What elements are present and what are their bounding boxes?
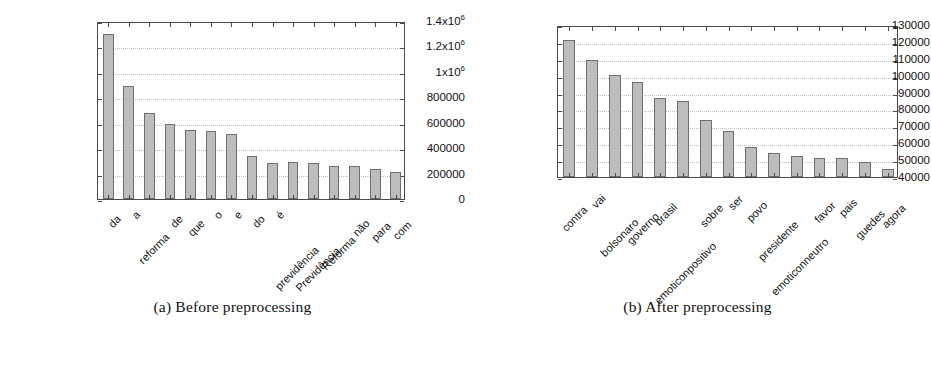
gridline bbox=[98, 48, 404, 49]
y-axis-tick-label: 130000 bbox=[854, 20, 930, 32]
x-tick-mark bbox=[231, 23, 232, 27]
y-axis-tick-label: 100000 bbox=[854, 71, 930, 83]
x-tick-mark bbox=[149, 195, 150, 199]
x-tick-mark bbox=[842, 27, 843, 31]
x-axis-tick-label-text: é bbox=[273, 208, 286, 221]
bar bbox=[632, 82, 644, 177]
y-axis-tick-label: 1.2x106 bbox=[374, 42, 465, 54]
bar bbox=[185, 130, 196, 199]
x-axis-tick-label: é bbox=[277, 204, 290, 217]
x-axis-tick-label: e bbox=[236, 204, 249, 217]
x-axis-tick-label-text: o bbox=[211, 208, 224, 221]
y-tick-mark bbox=[558, 27, 562, 28]
x-axis-tick-label: com bbox=[405, 204, 428, 227]
chart-before-preprocessing: 02000004000006000008000001x1061.2x1061.4… bbox=[0, 0, 465, 290]
bar bbox=[700, 120, 712, 177]
y-tick-mark bbox=[558, 95, 562, 96]
y-axis-tick-label: 80000 bbox=[854, 105, 930, 117]
bar bbox=[723, 131, 735, 177]
x-tick-mark bbox=[211, 195, 212, 199]
y-axis-tick-label: 110000 bbox=[854, 54, 930, 66]
y-tick-mark bbox=[558, 111, 562, 112]
x-tick-mark bbox=[129, 195, 130, 199]
x-axis-tick-label-text: contra bbox=[560, 204, 590, 234]
y-tick-mark bbox=[98, 99, 102, 100]
x-tick-mark bbox=[638, 173, 639, 177]
x-tick-mark bbox=[797, 27, 798, 31]
x-tick-mark bbox=[569, 173, 570, 177]
x-axis-tick-label-text: reforma bbox=[137, 231, 172, 266]
x-tick-mark bbox=[706, 27, 707, 31]
x-axis-tick-label-text: a bbox=[129, 208, 142, 221]
x-tick-mark bbox=[355, 195, 356, 199]
x-tick-mark bbox=[819, 27, 820, 31]
y-tick-mark bbox=[98, 48, 102, 49]
y-axis-tick-label: 60000 bbox=[854, 138, 930, 150]
y-tick-mark bbox=[558, 128, 562, 129]
subfigure-a: 02000004000006000008000001x1061.2x1061.4… bbox=[0, 0, 465, 367]
chart-after-preprocessing: 4000050000600007000080000900001000001100… bbox=[475, 0, 930, 290]
x-axis-tick-label-text: da bbox=[106, 213, 123, 230]
bar bbox=[563, 40, 575, 177]
y-axis-tick-label: 400000 bbox=[374, 143, 465, 155]
x-tick-mark bbox=[592, 27, 593, 31]
y-axis-tick-label: 1.4x106 bbox=[374, 16, 465, 28]
x-tick-mark bbox=[751, 27, 752, 31]
x-tick-mark bbox=[592, 173, 593, 177]
bar bbox=[308, 163, 319, 199]
bar bbox=[267, 163, 278, 199]
caption-subfigure-a: (a) Before preprocessing bbox=[0, 298, 465, 316]
y-tick-mark bbox=[558, 162, 562, 163]
bar bbox=[123, 86, 134, 199]
y-tick-mark bbox=[98, 23, 102, 24]
x-tick-mark bbox=[660, 173, 661, 177]
x-tick-mark bbox=[334, 195, 335, 199]
y-tick-mark bbox=[98, 125, 102, 126]
x-tick-mark bbox=[273, 23, 274, 27]
x-tick-mark bbox=[797, 173, 798, 177]
y-tick-mark bbox=[558, 179, 562, 180]
x-axis-tick-label: o bbox=[216, 204, 229, 217]
plot-frame bbox=[557, 26, 898, 178]
x-tick-mark bbox=[774, 173, 775, 177]
x-tick-mark bbox=[774, 27, 775, 31]
x-tick-mark bbox=[190, 195, 191, 199]
x-tick-mark bbox=[615, 27, 616, 31]
x-tick-mark bbox=[108, 23, 109, 27]
x-tick-mark bbox=[170, 195, 171, 199]
x-tick-mark bbox=[252, 195, 253, 199]
y-tick-mark bbox=[98, 150, 102, 151]
x-tick-mark bbox=[170, 23, 171, 27]
y-axis-tick-label: 1x106 bbox=[374, 67, 465, 79]
caption-subfigure-b: (b) After preprocessing bbox=[465, 298, 930, 316]
x-tick-mark bbox=[293, 23, 294, 27]
y-axis-tick-label: 120000 bbox=[854, 37, 930, 49]
x-tick-mark bbox=[252, 23, 253, 27]
x-axis-tick-label-text: e bbox=[232, 208, 245, 221]
x-tick-mark bbox=[293, 195, 294, 199]
y-axis-tick-label: 200000 bbox=[374, 169, 465, 181]
x-tick-mark bbox=[706, 173, 707, 177]
x-tick-mark bbox=[211, 23, 212, 27]
gridline bbox=[558, 44, 897, 45]
bar bbox=[144, 113, 155, 199]
figure-container: 02000004000006000008000001x1061.2x1061.4… bbox=[0, 0, 931, 367]
x-tick-mark bbox=[729, 173, 730, 177]
y-tick-mark bbox=[558, 78, 562, 79]
x-tick-mark bbox=[569, 27, 570, 31]
y-tick-mark bbox=[558, 61, 562, 62]
x-tick-mark bbox=[149, 23, 150, 27]
x-tick-mark bbox=[108, 195, 109, 199]
y-tick-mark bbox=[558, 44, 562, 45]
x-tick-mark bbox=[683, 173, 684, 177]
x-tick-mark bbox=[660, 27, 661, 31]
subfigure-b: 4000050000600007000080000900001000001100… bbox=[465, 0, 930, 367]
x-tick-mark bbox=[273, 195, 274, 199]
bar bbox=[165, 124, 176, 199]
y-axis-tick-label: 800000 bbox=[374, 93, 465, 105]
x-tick-mark bbox=[334, 23, 335, 27]
x-tick-mark bbox=[314, 195, 315, 199]
x-axis-tick-label-text: sobre bbox=[697, 201, 725, 229]
x-tick-mark bbox=[842, 173, 843, 177]
x-tick-mark bbox=[314, 23, 315, 27]
